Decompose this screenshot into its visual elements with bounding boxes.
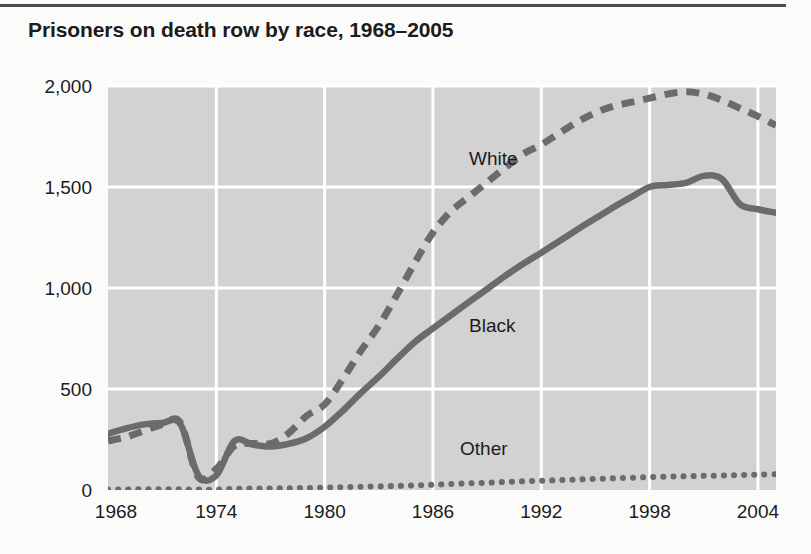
y-axis-tick-label: 500 (60, 379, 92, 400)
y-axis-tick-label: 1,500 (44, 177, 92, 198)
x-axis-tick-label: 1992 (520, 501, 562, 522)
x-axis-tick-label: 2004 (737, 501, 780, 522)
series-annotation-white: White (469, 148, 518, 169)
x-axis-tick-label: 1986 (412, 501, 454, 522)
series-annotation-black: Black (469, 315, 516, 336)
y-axis-tick-label: 1,000 (44, 278, 92, 299)
y-axis-tick-label: 2,000 (44, 76, 92, 97)
chart-plot-area: 05001,0001,5002,000 19681974198019861992… (0, 0, 811, 554)
y-axis-tick-label: 0 (81, 480, 92, 501)
x-axis-tick-labels: 1968197419801986199219982004 (95, 501, 780, 522)
series-annotation-other: Other (460, 438, 508, 459)
x-axis-tick-label: 1998 (628, 501, 670, 522)
chart-page: Prisoners on death row by race, 1968–200… (0, 0, 811, 554)
x-axis-tick-label: 1968 (95, 501, 137, 522)
y-axis-tick-labels: 05001,0001,5002,000 (44, 76, 92, 501)
x-axis-tick-label: 1974 (195, 501, 238, 522)
x-axis-tick-label: 1980 (304, 501, 346, 522)
